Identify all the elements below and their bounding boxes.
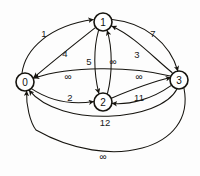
edge-1-to-2[interactable] [95,31,99,94]
node-0[interactable]: 0 [16,73,34,91]
edge-3-to-1[interactable] [112,26,172,72]
node-1-label: 1 [100,17,106,28]
node-3[interactable]: 3 [170,71,188,89]
edge-weight-3-to-1: 3 [134,49,139,60]
edge-weight-3-to-0-mid: 12 [100,117,111,128]
edge-weight-3-to-0-outer: ∞ [99,151,106,162]
edge-weight-1-to-2: 5 [86,56,91,67]
node-2[interactable]: 2 [94,93,112,111]
edge-weight-1-to-3: 7 [150,28,155,39]
edge-0-to-1[interactable] [22,20,93,74]
edge-3-to-0-upper[interactable] [34,69,170,78]
edge-layer [22,20,185,152]
graph-diagram-canvas: 0 1 2 3 1 4 5 ∞ 7 3 ∞ 2 ∞ [0,0,200,176]
edge-weight-2-to-3: ∞ [135,71,142,82]
edge-weight-1-to-0: 4 [62,48,67,59]
edge-weight-3-to-0-upper: ∞ [64,71,71,82]
edge-weight-0-to-1: 1 [41,28,46,39]
node-1[interactable]: 1 [94,13,112,31]
edge-weight-0-to-2: 2 [67,92,72,103]
node-3-label: 3 [176,75,182,86]
edge-weight-3-to-2: 11 [134,92,144,103]
graph-svg: 0 1 2 3 1 4 5 ∞ 7 3 ∞ 2 ∞ [0,0,200,176]
node-2-label: 2 [100,97,106,108]
edge-1-to-3[interactable] [112,20,178,71]
edge-weight-2-to-1: ∞ [109,56,116,67]
node-0-label: 0 [22,77,28,88]
